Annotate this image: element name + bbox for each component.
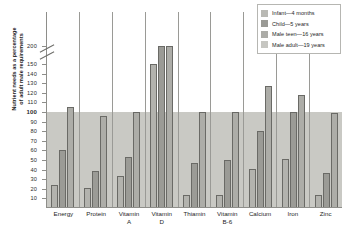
y-tick-90: 90 [42,122,46,123]
legend-label: Child—5 years [272,21,309,27]
nutrient-needs-bar-chart: Nutrient needs as a percentage of adult … [0,0,342,244]
bar [224,160,231,208]
bar [257,131,264,208]
legend-item-1: Child—5 years [261,19,337,30]
bar [125,157,132,208]
x-axis-label: Energy [47,210,80,226]
legend-swatch-icon [261,10,268,17]
y-tick-label-100: 100 [26,109,37,115]
bar [199,112,206,208]
bar [166,46,173,208]
legend-label: Male adult—19 years [272,42,325,48]
y-tick-140: 140 [42,74,46,75]
y-axis-title: Nutrient needs as a percentage of adult … [11,0,25,143]
bar [265,86,272,208]
legend-swatch-icon [261,31,268,38]
legend-swatch-icon [261,41,268,48]
x-axis-label: VitaminD [145,210,178,226]
legend-item-3: Male adult—19 years [261,40,337,51]
y-tick-label-120: 120 [27,90,37,96]
y-tick-label-40: 40 [30,167,37,173]
y-tick-label-110: 110 [27,99,37,105]
legend-item-2: Male teen—16 years [261,29,337,40]
y-tick-label-130: 130 [27,80,37,86]
y-tick-label-10: 10 [30,195,37,201]
y-tick-label-70: 70 [30,138,37,144]
bar [298,95,305,208]
bar [67,107,74,208]
y-tick-120: 120 [42,93,46,94]
bar-group-energy [47,12,80,208]
y-tick-label-30: 30 [30,176,37,182]
chart-legend: Infant—4 monthsChild—5 yearsMale teen—16… [257,4,341,54]
y-axis-line [46,12,47,208]
bar [191,163,198,208]
y-tick-60: 60 [42,150,46,151]
y-tick-label-200: 200 [27,43,37,49]
bar-group-vitamin-a [113,12,146,208]
y-tick-200: 200 [42,46,46,47]
bar [117,176,124,208]
y-tick-label-140: 140 [27,71,37,77]
bar-group-thiamin [179,12,212,208]
y-tick-label-60: 60 [30,147,37,153]
bar-group-vitamin-d [146,12,179,208]
legend-label: Male teen—16 years [272,31,324,37]
bar [216,195,223,208]
y-tick-150: 150 [42,64,46,65]
y-tick-label-20: 20 [30,186,37,192]
bar [282,159,289,208]
x-axis-label: Thiamin [178,210,211,226]
bar-group-protein [80,12,113,208]
x-axis-label: Iron [276,210,309,226]
y-tick-label-50: 50 [30,157,37,163]
y-tick-100: 100 [42,112,46,113]
x-axis-labels: EnergyProteinVitaminAVitaminDThiaminVita… [47,210,342,226]
y-tick-20: 20 [42,189,46,190]
bar [59,150,66,208]
legend-swatch-icon [261,20,268,27]
legend-label: Infant—4 months [272,10,315,16]
bar [290,112,297,208]
bar [249,169,256,208]
x-axis-label: VitaminB-6 [211,210,244,226]
bar [84,188,91,208]
y-tick-110: 110 [42,102,46,103]
x-axis-line [46,207,342,208]
y-tick-130: 130 [42,83,46,84]
bar [51,185,58,208]
bar [232,112,239,208]
y-tick-40: 40 [42,170,46,171]
bar [92,171,99,208]
bar [100,116,107,208]
y-axis-title-line-2: of adult male requirements [18,0,25,143]
y-tick-10: 10 [42,198,46,199]
bar-group-vitamin-b-6 [211,12,244,208]
y-tick-70: 70 [42,141,46,142]
bar [183,195,190,208]
bar [133,112,140,208]
y-axis-title-line-1: Nutrient needs as a percentage [11,0,18,143]
bar [323,173,330,208]
bar [158,46,165,208]
x-axis-label: Protein [80,210,113,226]
y-tick-label-80: 80 [30,128,37,134]
y-tick-label-150: 150 [27,61,37,67]
bar [315,195,322,208]
x-axis-label: VitaminA [113,210,146,226]
y-tick-30: 30 [42,179,46,180]
y-tick-50: 50 [42,160,46,161]
x-axis-label: Zinc [309,210,342,226]
bar [150,64,157,208]
y-tick-80: 80 [42,131,46,132]
bar [331,113,338,208]
x-axis-label: Calcium [244,210,277,226]
legend-item-0: Infant—4 months [261,8,337,19]
y-tick-label-90: 90 [30,119,37,125]
